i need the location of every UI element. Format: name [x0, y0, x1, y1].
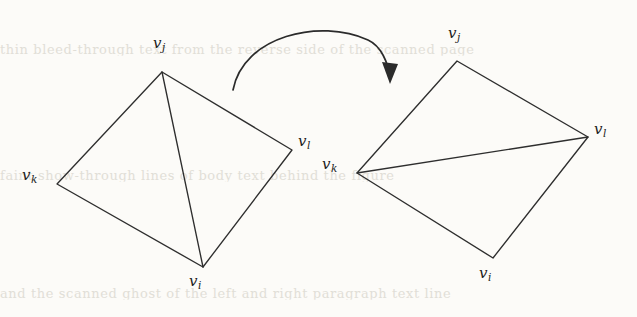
left-quadrilateral-outline	[57, 72, 292, 267]
left-diagonal-edge-vj-vi	[162, 72, 203, 267]
right-vertex-label-vl: vl	[594, 122, 606, 139]
left-vertex-label-vk: vk	[22, 168, 37, 185]
left-vertex-label-vl: vl	[298, 134, 310, 151]
right-vertex-label-vj: vj	[448, 26, 460, 43]
figure-root: thin bleed-through text from the reverse…	[0, 0, 637, 317]
edge-flip-svg	[0, 0, 637, 317]
right-vertex-label-vi: vi	[479, 266, 491, 283]
right-diagonal-edge-vk-vl	[357, 137, 588, 173]
left-vertex-label-vi: vi	[189, 274, 201, 291]
flip-arrow-head-icon	[382, 62, 398, 84]
right-vertex-label-vk: vk	[322, 157, 337, 174]
right-quadrilateral-outline	[357, 61, 588, 258]
flip-arrow-arc	[233, 31, 390, 90]
left-vertex-label-vj: vj	[153, 36, 165, 53]
